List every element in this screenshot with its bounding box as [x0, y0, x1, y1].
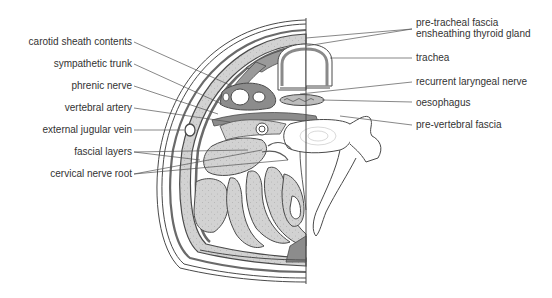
label-fascial-layers: fascial layers	[74, 146, 132, 157]
label-pre-vertebral-fascia: pre-vertebral fascia	[416, 119, 502, 130]
common-carotid-artery	[253, 92, 265, 102]
oesophagus	[280, 95, 324, 106]
neck-cross-section-figure: carotid sheath contents sympathetic trun…	[0, 0, 552, 298]
label-trachea: trachea	[416, 52, 449, 63]
label-carotid-sheath-contents: carotid sheath contents	[29, 36, 132, 47]
label-vertebral-artery: vertebral artery	[65, 102, 132, 113]
label-pre-tracheal-fascia-line2: ensheathing thyroid gland	[416, 28, 531, 39]
label-phrenic-nerve: phrenic nerve	[71, 80, 132, 91]
label-sympathetic-trunk: sympathetic trunk	[54, 58, 132, 69]
label-pre-tracheal-fascia-line1: pre-tracheal fascia	[416, 17, 531, 28]
label-recurrent-laryngeal-nerve: recurrent laryngeal nerve	[416, 76, 527, 87]
carotid-sheath	[220, 83, 276, 110]
external-jugular-vein	[185, 124, 195, 136]
internal-jugular-vein	[231, 89, 249, 105]
trachea	[278, 44, 332, 90]
deep-neck-muscles	[194, 138, 306, 248]
label-oesophagus: oesophagus	[416, 97, 471, 108]
label-pre-tracheal-fascia: pre-tracheal fascia ensheathing thyroid …	[416, 17, 531, 39]
label-cervical-nerve-root: cervical nerve root	[50, 168, 132, 179]
vertebral-artery	[256, 123, 268, 135]
label-external-jugular-vein: external jugular vein	[43, 124, 133, 135]
